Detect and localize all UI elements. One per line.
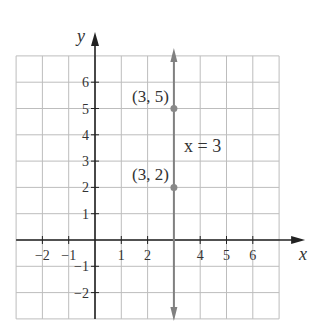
coordinate-plane: xy −2−112456−2−1123456 (3, 5)(3, 2) x = … <box>0 0 318 333</box>
y-tick-label: 2 <box>82 180 89 195</box>
y-tick-label: 3 <box>82 154 89 169</box>
y-tick-label: −2 <box>74 286 89 301</box>
x-tick-label: −2 <box>35 248 50 263</box>
y-axis-arrow-icon <box>91 32 99 46</box>
x-tick-label: 5 <box>223 248 230 263</box>
x-axis-arrow-icon <box>291 236 305 244</box>
equation-label: x = 3 <box>184 136 221 156</box>
points: (3, 5)(3, 2) <box>132 87 177 191</box>
y-tick-label: 5 <box>82 102 89 117</box>
point-marker <box>170 105 177 112</box>
x-tick-label: 1 <box>118 248 125 263</box>
x-tick-label: 4 <box>197 248 204 263</box>
x-axis-label: x <box>298 244 307 264</box>
y-axis-label: y <box>75 26 85 46</box>
point-label: (3, 2) <box>132 165 169 184</box>
y-tick-label: 6 <box>82 75 89 90</box>
x-tick-label: 2 <box>144 248 151 263</box>
y-tick-label: 4 <box>82 128 89 143</box>
point-label: (3, 5) <box>132 87 169 106</box>
y-tick-label: −1 <box>74 259 89 274</box>
annotations: x = 3 <box>184 136 221 156</box>
x-tick-label: 6 <box>249 248 256 263</box>
point-marker <box>170 184 177 191</box>
y-tick-label: 1 <box>82 207 89 222</box>
up-arrow-icon <box>170 48 177 62</box>
